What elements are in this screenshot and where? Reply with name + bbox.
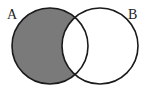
set-label-b: B: [128, 7, 137, 22]
venn-svg: A B: [0, 0, 145, 88]
set-label-a: A: [7, 7, 18, 22]
venn-diagram: A B: [0, 0, 145, 88]
